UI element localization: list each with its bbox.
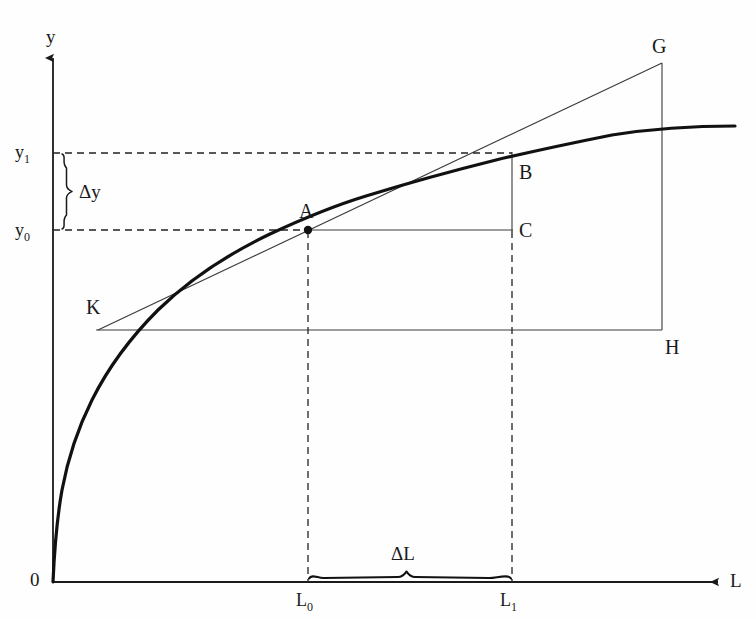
L1-base: L [500, 590, 511, 610]
L1-sub: 1 [511, 600, 518, 614]
point-label-H: H [665, 336, 679, 359]
x-tick-label-L0: L0 [296, 590, 314, 615]
point-marker-A [304, 226, 312, 234]
brace-delta-L [309, 572, 511, 579]
y0-sub: 0 [24, 230, 31, 244]
L0-base: L [296, 590, 307, 610]
figure-container: y L 0 y1 y0 L0 L1 Δy ΔL A B C G H K [0, 0, 756, 620]
y-axis-label: y [46, 26, 56, 48]
point-label-C: C [519, 219, 532, 242]
y1-sub: 1 [24, 152, 31, 166]
total-product-curve [53, 126, 735, 582]
L0-sub: 0 [307, 600, 314, 614]
y1-base: y [15, 142, 24, 162]
point-label-K: K [86, 296, 100, 319]
x-tick-label-L1: L1 [500, 590, 518, 615]
origin-label: 0 [30, 569, 40, 591]
point-label-A: A [299, 200, 313, 223]
delta-y-label: Δy [79, 181, 101, 203]
brace-delta-y [62, 154, 72, 229]
point-label-G: G [652, 35, 666, 58]
delta-L-label: ΔL [391, 543, 415, 565]
dashed-guides [53, 153, 512, 582]
y-tick-label-y1: y1 [15, 142, 31, 167]
axis-group [53, 58, 718, 582]
diagram-canvas [0, 0, 756, 620]
x-axis-label: L [730, 570, 742, 592]
y0-base: y [15, 220, 24, 240]
point-label-B: B [519, 161, 532, 184]
y-tick-label-y0: y0 [15, 220, 31, 245]
